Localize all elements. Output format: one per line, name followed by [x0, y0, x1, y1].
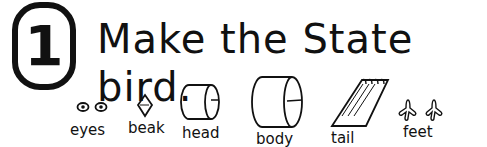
- part-label-tail: tail: [331, 129, 354, 147]
- part-label-eyes: eyes: [70, 121, 105, 139]
- part-label-beak: beak: [128, 119, 165, 137]
- feet-icon: [396, 98, 446, 124]
- part-label-feet: feet: [403, 123, 433, 141]
- tail-icon: [330, 76, 390, 128]
- part-label-body: body: [256, 130, 293, 147]
- step-number: 1: [18, 14, 70, 78]
- eyes-icon: [76, 100, 116, 114]
- body-icon: [252, 76, 304, 130]
- head-icon: [181, 84, 223, 122]
- part-label-head: head: [182, 124, 219, 142]
- beak-icon: [136, 94, 154, 120]
- step-number-badge: 1: [12, 2, 76, 90]
